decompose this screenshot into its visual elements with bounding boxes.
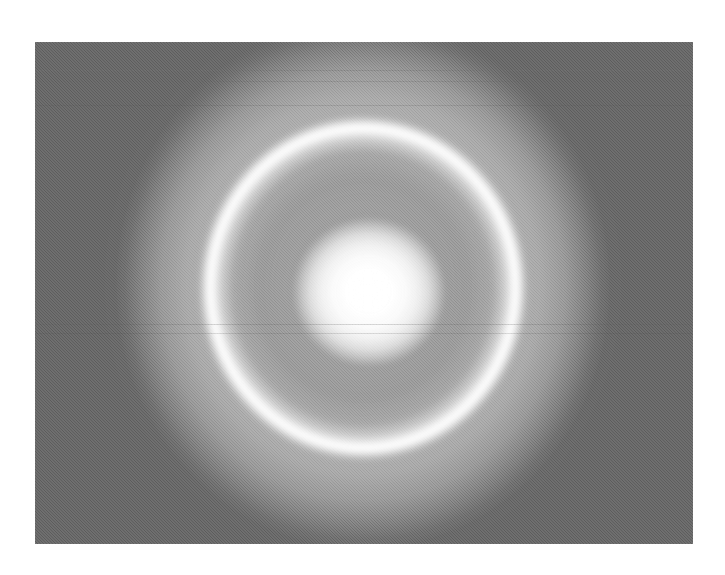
page-margin-right xyxy=(693,0,725,575)
page-margin-left xyxy=(0,0,35,575)
core-hotspot xyxy=(35,42,693,544)
page-root xyxy=(0,0,725,575)
page-margin-top xyxy=(0,0,725,42)
scientific-image-plate[interactable] xyxy=(35,42,693,544)
page-margin-bottom xyxy=(0,544,725,575)
